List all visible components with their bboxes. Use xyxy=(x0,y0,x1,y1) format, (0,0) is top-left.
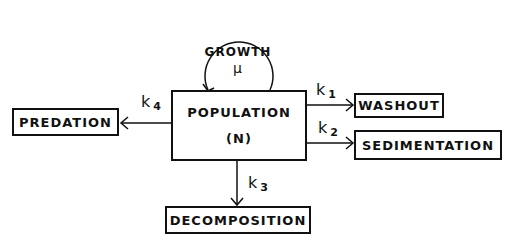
sedimentation-box: SEDIMENTATION xyxy=(354,130,502,160)
predation-label: PREDATION xyxy=(19,115,112,130)
population-symbol: (N) xyxy=(226,126,252,152)
growth-label: GROWTH μ xyxy=(200,44,276,76)
growth-text: GROWTH xyxy=(200,44,276,60)
rate-k3: k3 xyxy=(248,173,268,194)
rate-k2: k2 xyxy=(318,118,338,139)
washout-box: WASHOUT xyxy=(354,93,444,118)
growth-symbol: μ xyxy=(200,60,276,76)
sedimentation-label: SEDIMENTATION xyxy=(362,138,494,153)
population-box: POPULATION (N) xyxy=(171,90,307,161)
rate-k1: k1 xyxy=(316,80,336,101)
decomposition-label: DECOMPOSITION xyxy=(170,213,307,228)
predation-box: PREDATION xyxy=(12,108,119,136)
decomposition-box: DECOMPOSITION xyxy=(165,206,311,234)
population-label: POPULATION xyxy=(187,100,291,126)
rate-k4: k4 xyxy=(141,92,161,113)
washout-label: WASHOUT xyxy=(358,98,440,113)
